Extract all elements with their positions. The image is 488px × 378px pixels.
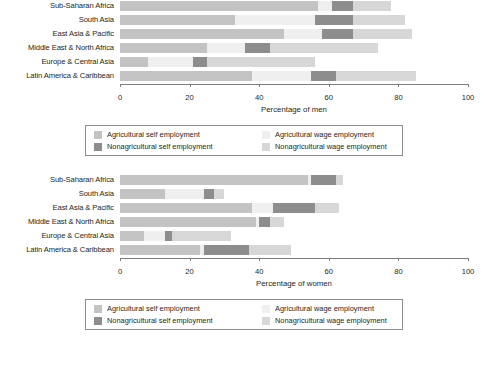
legend-men: Agricultural self employmentAgricultural…	[85, 125, 403, 156]
x-axis-women	[0, 258, 488, 266]
bar-row: Sub-Saharan Africa	[0, 174, 488, 186]
bar-segment-ag-wage	[207, 43, 245, 53]
legend-label: Agricultural wage employment	[275, 304, 374, 313]
bar-segment-nonag-self	[332, 1, 353, 11]
legend-item: Nonagricultural self employment	[94, 142, 262, 151]
legend-grid-men: Agricultural self employmentAgricultural…	[94, 130, 394, 151]
bar-segment-nonag-self	[315, 15, 353, 25]
x-axis-tick	[398, 258, 399, 261]
x-axis-tick	[259, 84, 260, 87]
legend-swatch-ag-wage	[262, 131, 270, 139]
stacked-bar	[120, 43, 488, 53]
x-axis-title-men: Percentage of men	[120, 104, 468, 116]
stacked-bar	[120, 245, 488, 255]
bar-row: South Asia	[0, 14, 488, 26]
x-axis-tick-label: 100	[462, 266, 475, 277]
bar-segment-ag-wage	[252, 203, 273, 213]
bar-segment-nonag-wage	[270, 43, 378, 53]
bar-row-label: Middle East & North Africa	[0, 42, 114, 54]
bar-segment-nonag-wage	[172, 231, 231, 241]
x-axis-tick-label: 0	[118, 92, 122, 103]
stacked-bar	[120, 71, 488, 81]
bar-segment-ag-self	[120, 15, 235, 25]
legend-grid-women: Agricultural self employmentAgricultural…	[94, 304, 394, 325]
x-axis-tick	[259, 258, 260, 261]
bar-segment-ag-wage	[148, 57, 193, 67]
bar-rows-women: Sub-Saharan AfricaSouth AsiaEast Asia & …	[0, 174, 488, 256]
bar-row-label: Latin America & Caribbean	[0, 70, 114, 82]
bar-row-label: Europe & Central Asia	[0, 56, 114, 68]
legend-item: Nonagricultural wage employment	[262, 316, 394, 325]
legend-swatch-nonag-self	[94, 317, 102, 325]
legend-swatch-nonag-self	[94, 143, 102, 151]
bar-segment-ag-self	[120, 175, 308, 185]
bar-segment-nonag-wage	[315, 203, 339, 213]
bar-segment-ag-self	[120, 1, 318, 11]
chart-men: Sub-Saharan AfricaSouth AsiaEast Asia & …	[0, 0, 488, 156]
x-axis-tick-label: 60	[325, 92, 333, 103]
bar-row-label: South Asia	[0, 188, 114, 200]
x-axis-tick	[468, 258, 469, 261]
bar-segment-ag-self	[120, 231, 144, 241]
stacked-bar	[120, 57, 488, 67]
bar-row: East Asia & Pacific	[0, 28, 488, 40]
axis-line	[120, 84, 468, 85]
x-axis-men	[0, 84, 488, 92]
bar-segment-ag-wage	[318, 1, 332, 11]
legend-swatch-ag-self	[94, 131, 102, 139]
x-tick-labels-men: 020406080100	[0, 92, 488, 104]
stacked-bar	[120, 15, 488, 25]
stacked-bar	[120, 217, 488, 227]
bar-segment-ag-self	[120, 43, 207, 53]
bar-row-label: South Asia	[0, 14, 114, 26]
legend-label: Agricultural self employment	[107, 130, 200, 139]
bar-segment-ag-self	[120, 203, 252, 213]
bar-segment-ag-wage	[252, 71, 311, 81]
legend-women: Agricultural self employmentAgricultural…	[85, 299, 403, 330]
legend-swatch-nonag-wage	[262, 143, 270, 151]
x-axis-tick	[398, 84, 399, 87]
legend-swatch-ag-self	[94, 305, 102, 313]
stacked-bar	[120, 189, 488, 199]
legend-label: Nonagricultural wage employment	[275, 316, 387, 325]
bar-segment-nonag-self	[165, 231, 172, 241]
bar-segment-ag-self	[120, 57, 148, 67]
bar-row: Europe & Central Asia	[0, 230, 488, 242]
x-axis-title-women: Percentage of women	[120, 278, 468, 290]
bar-row: Middle East & North Africa	[0, 216, 488, 228]
x-axis-tick	[329, 258, 330, 261]
bar-segment-ag-self	[120, 29, 284, 39]
legend-item: Agricultural self employment	[94, 304, 262, 313]
bar-row: East Asia & Pacific	[0, 202, 488, 214]
bar-segment-ag-self	[120, 189, 165, 199]
bar-segment-ag-wage	[165, 189, 203, 199]
plot-area-men: Sub-Saharan AfricaSouth AsiaEast Asia & …	[0, 0, 488, 116]
stacked-bar	[120, 231, 488, 241]
bar-segment-nonag-self	[204, 189, 214, 199]
x-axis-tick	[329, 84, 330, 87]
bar-segment-ag-self	[120, 245, 200, 255]
bar-row-label: East Asia & Pacific	[0, 28, 114, 40]
bar-row: Middle East & North Africa	[0, 42, 488, 54]
legend-label: Agricultural wage employment	[275, 130, 374, 139]
bar-segment-nonag-self	[273, 203, 315, 213]
chart-women: Sub-Saharan AfricaSouth AsiaEast Asia & …	[0, 174, 488, 330]
bar-row-label: Latin America & Caribbean	[0, 244, 114, 256]
plot-area-women: Sub-Saharan AfricaSouth AsiaEast Asia & …	[0, 174, 488, 290]
bar-row-label: Middle East & North Africa	[0, 216, 114, 228]
legend-swatch-ag-wage	[262, 305, 270, 313]
figure-root: Sub-Saharan AfricaSouth AsiaEast Asia & …	[0, 0, 488, 330]
x-axis-tick-label: 80	[394, 92, 402, 103]
x-axis-tick-label: 100	[462, 92, 475, 103]
bar-segment-nonag-wage	[270, 217, 284, 227]
bar-segment-ag-wage	[144, 231, 165, 241]
legend-item: Nonagricultural self employment	[94, 316, 262, 325]
bar-segment-nonag-self	[259, 217, 269, 227]
legend-swatch-nonag-wage	[262, 317, 270, 325]
legend-item: Agricultural wage employment	[262, 130, 394, 139]
legend-item: Nonagricultural wage employment	[262, 142, 394, 151]
x-axis-tick-label: 40	[255, 92, 263, 103]
bar-segment-nonag-wage	[214, 189, 224, 199]
bar-segment-nonag-wage	[249, 245, 291, 255]
x-axis-tick-label: 60	[325, 266, 333, 277]
